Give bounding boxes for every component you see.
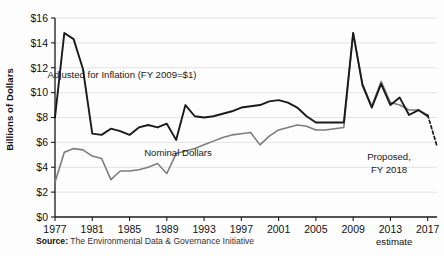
x-tick-label: 2017 (416, 223, 440, 235)
y-tick-label: $12 (30, 62, 48, 74)
y-tick-label: $0 (36, 211, 48, 223)
chart-figure: Billions of Dollars $0$2$4$6$8$10$12$14$… (0, 0, 444, 256)
source-label: Source: (36, 236, 68, 246)
annotation-label: FY 2018 (371, 164, 407, 175)
source-text: The Environmental Data & Governance Init… (70, 236, 254, 246)
plot-area: $0$2$4$6$8$10$12$14$16 19771981198519891… (0, 0, 444, 256)
x-tick-label: 1981 (81, 223, 105, 235)
annotation-label: Proposed, (367, 151, 411, 162)
chart-svg: $0$2$4$6$8$10$12$14$16 19771981198519891… (0, 0, 444, 256)
x-tick-label: 1997 (230, 223, 254, 235)
source-note: Source: The Environmental Data & Governa… (36, 236, 254, 246)
x-tick-label: 2009 (341, 223, 365, 235)
y-tick-label: $2 (36, 186, 48, 198)
x-tick-label: 1977 (43, 223, 67, 235)
x-tick-label: 2005 (304, 223, 328, 235)
y-tick-label: $8 (36, 111, 48, 123)
estimate-note: estimate (376, 236, 412, 247)
y-tick-label: $14 (30, 37, 48, 49)
y-axis-ticks: $0$2$4$6$8$10$12$14$16 (30, 12, 55, 223)
y-tick-label: $6 (36, 136, 48, 148)
x-tick-label: 1989 (155, 223, 179, 235)
projection-line-proposed-fy2018 (428, 115, 437, 146)
x-tick-label: 1985 (118, 223, 142, 235)
y-tick-label: $10 (30, 86, 48, 98)
y-tick-label: $4 (36, 161, 48, 173)
x-tick-label: 1993 (192, 223, 216, 235)
annotation-label: Adjusted for Inflation (FY 2009=$1) (48, 69, 197, 80)
annotation-label: Nominal Dollars (144, 147, 212, 158)
y-tick-label: $16 (30, 12, 48, 24)
x-tick-label: 2013 (379, 223, 403, 235)
series-line-adjusted-for-inflation (55, 33, 428, 140)
x-tick-label: 2001 (267, 223, 291, 235)
x-axis-ticks: 1977198119851989199319972001200520092013… (43, 217, 439, 235)
